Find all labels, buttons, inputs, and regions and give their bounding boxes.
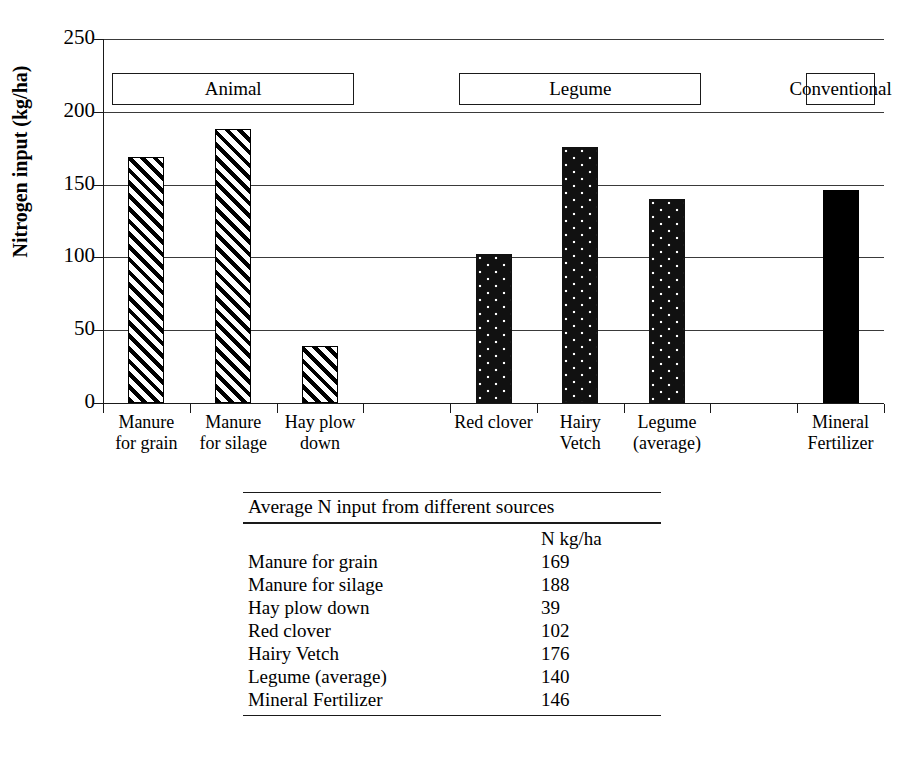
- y-tick-label-150: 150: [35, 173, 95, 194]
- table-row: Legume (average)140: [243, 666, 661, 689]
- y-tick-label-50: 50: [35, 318, 95, 339]
- table-row: Red clover102: [243, 620, 661, 643]
- table-unit-header-row: N kg/ha: [243, 524, 661, 551]
- gridline-250: [103, 39, 884, 40]
- y-tick-mark-150: [94, 185, 104, 186]
- table-row: Hay plow down39: [243, 597, 661, 620]
- y-axis-title: Nitrogen input (kg/ha): [9, 0, 32, 332]
- table-row: Mineral Fertilizer146: [243, 689, 661, 712]
- bar-146: [823, 190, 859, 403]
- y-tick-label-200: 200: [35, 100, 95, 121]
- table-cell-value: 169: [529, 551, 661, 574]
- group-box-label: Legume: [549, 78, 611, 100]
- table-cell-name: Red clover: [243, 620, 529, 643]
- bar-140: [649, 199, 685, 403]
- table-cell-name: Manure for silage: [243, 574, 529, 597]
- table-cell-value: 140: [529, 666, 661, 689]
- y-axis-tick-labels: 050100150200250: [33, 0, 95, 420]
- table-unit-header: N kg/ha: [529, 524, 661, 551]
- figure: Nitrogen input (kg/ha) 050100150200250 A…: [0, 0, 904, 764]
- table-body: N kg/ha Manure for grain169Manure for si…: [243, 524, 661, 715]
- x-axis-label-line2: (average): [612, 433, 722, 454]
- x-axis-label-6: MineralFertilizer: [786, 412, 896, 454]
- table-cell-name: Legume (average): [243, 666, 529, 689]
- bar-102: [476, 254, 512, 403]
- y-tick-mark-50: [94, 330, 104, 331]
- table-row: Hairy Vetch176: [243, 643, 661, 666]
- group-box-legume: Legume: [459, 73, 701, 105]
- y-tick-label-0: 0: [35, 391, 95, 412]
- table-cell-name: Mineral Fertilizer: [243, 689, 529, 712]
- table-row: Manure for grain169: [243, 551, 661, 574]
- x-axis-label-line2: Fertilizer: [786, 433, 896, 454]
- x-axis-label-line1: Legume: [612, 412, 722, 433]
- gridline-200: [103, 112, 884, 113]
- table-cell-value: 188: [529, 574, 661, 597]
- y-tick-mark-250: [94, 39, 104, 40]
- y-tick-label-100: 100: [35, 245, 95, 266]
- group-box-conventional: Conventional: [806, 73, 875, 105]
- table-title-row: Average N input from different sources: [243, 493, 661, 522]
- table-cell-name: Hairy Vetch: [243, 643, 529, 666]
- bar-39: [302, 346, 338, 403]
- group-box-animal: Animal: [112, 73, 354, 105]
- table-row: Manure for silage188: [243, 574, 661, 597]
- x-axis-label-2: Hay plowdown: [265, 412, 375, 454]
- summary-table: Average N input from different sources N…: [243, 492, 661, 716]
- bar-chart: Nitrogen input (kg/ha) 050100150200250 A…: [0, 0, 904, 480]
- gridline-0: [103, 403, 884, 404]
- table-title: Average N input from different sources: [243, 493, 661, 522]
- table-grid: Average N input from different sources: [243, 493, 661, 522]
- y-tick-mark-200: [94, 112, 104, 113]
- table-cell-value: 39: [529, 597, 661, 620]
- group-box-label: Animal: [205, 78, 262, 100]
- table-rule-bottom: [243, 715, 661, 716]
- y-axis-line: [103, 39, 104, 404]
- x-axis-label-5: Legume(average): [612, 412, 722, 454]
- bar-169: [128, 157, 164, 403]
- y-tick-label-250: 250: [35, 27, 95, 48]
- table-unit-spacer: [243, 524, 529, 551]
- y-tick-mark-100: [94, 257, 104, 258]
- table-cell-value: 146: [529, 689, 661, 712]
- x-axis-label-line1: Mineral: [786, 412, 896, 433]
- bar-176: [562, 147, 598, 403]
- x-axis-label-line2: down: [265, 433, 375, 454]
- table-cell-value: 176: [529, 643, 661, 666]
- table-cell-value: 102: [529, 620, 661, 643]
- group-box-label: Conventional: [789, 78, 891, 100]
- bar-188: [215, 129, 251, 403]
- x-axis-label-line1: Hay plow: [265, 412, 375, 433]
- table-cell-name: Hay plow down: [243, 597, 529, 620]
- table-cell-name: Manure for grain: [243, 551, 529, 574]
